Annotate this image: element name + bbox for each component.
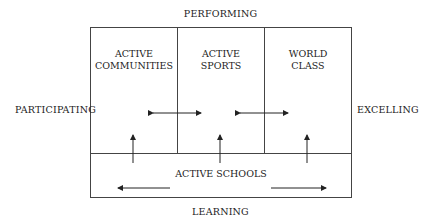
cell-active-sports-line2: SPORTS <box>178 60 264 72</box>
axis-label-bottom: LEARNING <box>0 207 426 217</box>
cell-active-communities-line2: COMMUNITIES <box>91 60 177 72</box>
cell-world-class-line1: WORLD <box>265 48 351 60</box>
cell-active-sports: ACTIVE SPORTS <box>178 48 264 72</box>
axis-label-right: EXCELLING <box>357 105 419 115</box>
cell-world-class-line2: CLASS <box>265 60 351 72</box>
cell-active-schools: ACTIVE SCHOOLS <box>91 168 351 180</box>
cell-active-communities-line1: ACTIVE <box>91 48 177 60</box>
cell-active-communities: ACTIVE COMMUNITIES <box>91 48 177 72</box>
axis-label-left: PARTICIPATING <box>15 105 96 115</box>
cell-world-class: WORLD CLASS <box>265 48 351 72</box>
cell-active-sports-line1: ACTIVE <box>178 48 264 60</box>
axis-label-top: PERFORMING <box>0 9 426 19</box>
